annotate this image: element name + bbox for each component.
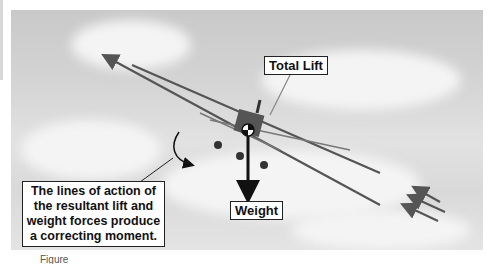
- moment-pointer: [140, 158, 173, 182]
- total-lift-label: Total Lift: [264, 56, 328, 75]
- figure-caption: Figure: [40, 254, 68, 264]
- moment-arc-arrow: [174, 132, 192, 165]
- moment-note-label: The lines of action of the resultant lif…: [22, 181, 165, 247]
- airplane-front-view-icon: [200, 100, 350, 169]
- weight-label: Weight: [230, 201, 283, 220]
- total-lift-pointer: [270, 73, 291, 115]
